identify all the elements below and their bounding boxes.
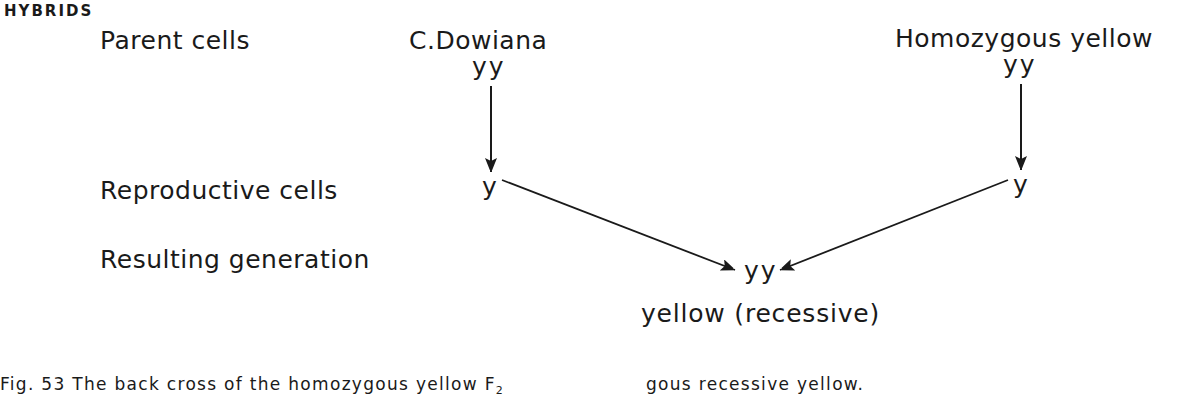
cross-arrows bbox=[0, 0, 1180, 396]
right-diagonal-arrow bbox=[780, 180, 1008, 270]
left-diagonal-arrow bbox=[502, 180, 735, 270]
